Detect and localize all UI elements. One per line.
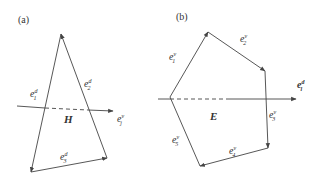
edge-label-e5v: ev5 — [172, 134, 178, 147]
edge-label-e2d: ed2 — [84, 78, 90, 91]
edge-e2d — [61, 34, 107, 158]
diagram-canvas — [0, 0, 316, 184]
edge-e1v — [170, 32, 208, 97]
edge-label-eld: edl — [297, 79, 302, 92]
edge-label-e3d: ed3 — [60, 151, 66, 164]
edge-label-e1d: ed1 — [30, 88, 36, 101]
edge-label-e4v: ev4 — [229, 145, 235, 158]
edge-e2v — [208, 32, 265, 71]
edge-e1d — [31, 34, 61, 172]
edge-e3v — [265, 71, 268, 148]
edge-label-ejv: evj — [117, 113, 122, 126]
region-label-h: H — [64, 114, 73, 125]
panel-a-tag: (a) — [18, 14, 29, 25]
crossing-line-a-left — [17, 106, 45, 108]
edge-label-e3v: ev3 — [269, 109, 275, 122]
crossing-line-a-right — [88, 110, 113, 111]
pentagon-b — [158, 32, 296, 166]
edge-label-e1v: ev1 — [169, 51, 175, 64]
edge-label-e2v: ev2 — [240, 33, 246, 46]
panel-b-tag: (b) — [176, 11, 188, 22]
region-label-e: E — [210, 111, 217, 122]
edge-e3d — [31, 158, 107, 172]
edge-e5v — [170, 97, 200, 166]
crossing-line-a-dashed — [45, 108, 88, 110]
